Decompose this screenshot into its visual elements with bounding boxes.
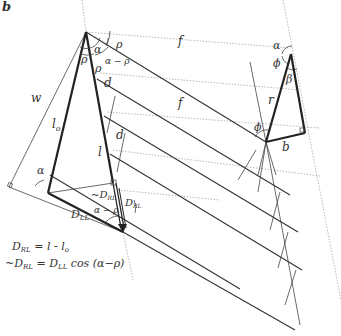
label-w: w <box>31 91 42 105</box>
equation-2: ~DRL = DLL cos (α−ρ) <box>5 257 124 271</box>
geometry-diagram: b w lo l d d f f ρ ρ ρ α α − ρ α α − ρ ~… <box>0 0 341 336</box>
label-right-b: b <box>282 140 290 154</box>
label-right-alpha: α <box>273 39 281 52</box>
label-f2: f <box>177 96 185 110</box>
label-d-rl: DRL <box>124 197 142 209</box>
label-neg-d-rl: ~DRL <box>91 189 116 201</box>
label-alpha-minus-rho-top: α − ρ <box>105 56 130 66</box>
label-d-ll: DLL <box>70 208 89 222</box>
parallel-lines <box>50 32 302 330</box>
label-right-phi-lower: ϕ <box>254 121 262 134</box>
label-l-o: lo <box>52 117 61 133</box>
label-rho-lower: ρ <box>94 62 102 75</box>
label-rho-top: ρ <box>115 38 123 51</box>
label-alpha-minus-rho-bottom: α − ρ <box>94 205 119 215</box>
label-d2: d <box>116 128 124 142</box>
label-alpha-top: α <box>94 43 102 56</box>
panel-label: b <box>2 0 11 14</box>
equation-1: DRL = l - lo <box>11 240 69 254</box>
label-alpha-base: α <box>37 164 45 177</box>
label-rho-left: ρ <box>80 53 88 66</box>
label-right-phi: ϕ <box>273 57 281 70</box>
label-right-beta: β <box>285 73 292 86</box>
label-l: l <box>98 145 102 159</box>
label-right-r: r <box>268 93 275 107</box>
label-f1: f <box>177 34 185 48</box>
label-d1: d <box>104 76 112 90</box>
